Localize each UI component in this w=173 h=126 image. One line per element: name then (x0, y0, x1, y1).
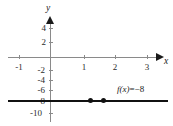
y-tick-mark (49, 113, 53, 114)
function-argument-text: (x) (120, 84, 130, 94)
x-tick-mark (147, 55, 148, 59)
x-tick-mark (19, 55, 20, 59)
function-equation-label: f(x)=−8 (117, 84, 144, 94)
y-axis-arrow-icon (46, 16, 54, 24)
coordinate-plane-figure: x y -1 1 2 3 4 2 -2 -4 -6 -8 -10 f(x)=−8 (0, 0, 173, 126)
x-tick-mark (115, 55, 116, 59)
y-tick-mark (49, 42, 53, 43)
y-tick-mark (49, 70, 53, 71)
x-tick-mark (84, 55, 85, 59)
x-tick-label: 2 (105, 62, 125, 72)
x-axis-label: x (164, 56, 168, 66)
y-tick-label: -6 (23, 85, 45, 95)
data-point-marker (88, 98, 93, 103)
y-tick-mark (49, 80, 53, 81)
y-tick-label: 2 (24, 37, 46, 47)
y-tick-label: -4 (23, 75, 45, 85)
x-tick-label: 1 (74, 62, 94, 72)
y-tick-mark (49, 28, 53, 29)
x-tick-label: 3 (137, 62, 157, 72)
function-value-text: =−8 (130, 84, 145, 94)
y-tick-mark (49, 90, 53, 91)
x-axis-arrow-icon (156, 53, 164, 61)
y-tick-label: -10 (20, 108, 42, 118)
y-tick-label: 4 (24, 23, 46, 33)
y-tick-label: -2 (23, 65, 45, 75)
data-point-marker (101, 98, 106, 103)
y-axis-label: y (46, 3, 50, 13)
